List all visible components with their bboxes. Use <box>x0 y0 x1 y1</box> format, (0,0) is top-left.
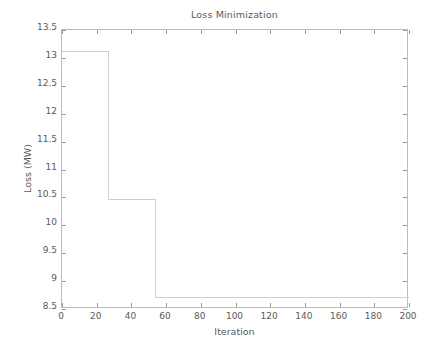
y-tick-left <box>62 58 66 59</box>
chart-figure: Loss Minimization Iteration Loss (MW) 02… <box>0 0 430 350</box>
y-tick-right <box>403 253 407 254</box>
x-tick-bottom <box>201 303 202 307</box>
x-tick-bottom <box>62 303 63 307</box>
y-tick-left <box>62 114 66 115</box>
x-tick-label: 0 <box>58 311 64 321</box>
x-tick-top <box>131 30 132 34</box>
chart-title: Loss Minimization <box>61 9 408 20</box>
y-tick-left <box>62 170 66 171</box>
y-tick-right <box>403 197 407 198</box>
y-tick-left <box>62 309 66 310</box>
y-tick-left <box>62 281 66 282</box>
y-axis-title: Loss (MW) <box>22 29 36 308</box>
x-tick-label: 140 <box>295 311 312 321</box>
loss-series-line <box>62 52 409 298</box>
x-tick-top <box>97 30 98 34</box>
y-tick-left <box>62 253 66 254</box>
x-tick-label: 200 <box>399 311 416 321</box>
y-tick-right <box>403 170 407 171</box>
x-tick-bottom <box>236 303 237 307</box>
y-tick-left <box>62 30 66 31</box>
y-tick-left <box>62 86 66 87</box>
x-tick-label: 40 <box>125 311 136 321</box>
y-tick-right <box>403 142 407 143</box>
x-tick-label: 180 <box>365 311 382 321</box>
x-tick-top <box>166 30 167 34</box>
y-tick-left <box>62 197 66 198</box>
y-tick-right <box>403 30 407 31</box>
y-tick-left <box>62 225 66 226</box>
y-tick-right <box>403 309 407 310</box>
x-tick-label: 120 <box>261 311 278 321</box>
x-tick-top <box>340 30 341 34</box>
x-tick-bottom <box>270 303 271 307</box>
x-tick-bottom <box>340 303 341 307</box>
x-tick-bottom <box>409 303 410 307</box>
x-tick-bottom <box>97 303 98 307</box>
plot-inner <box>62 30 407 307</box>
x-tick-bottom <box>166 303 167 307</box>
x-tick-label: 20 <box>90 311 101 321</box>
y-tick-right <box>403 86 407 87</box>
x-tick-label: 100 <box>226 311 243 321</box>
x-tick-label: 160 <box>330 311 347 321</box>
data-line-svg <box>62 30 409 309</box>
y-tick-left <box>62 142 66 143</box>
x-tick-top <box>374 30 375 34</box>
x-axis-title: Iteration <box>61 326 408 337</box>
x-tick-bottom <box>305 303 306 307</box>
x-tick-top <box>236 30 237 34</box>
x-tick-top <box>270 30 271 34</box>
x-tick-top <box>305 30 306 34</box>
x-tick-label: 60 <box>159 311 170 321</box>
y-tick-right <box>403 58 407 59</box>
plot-area <box>61 29 408 308</box>
x-tick-bottom <box>374 303 375 307</box>
y-tick-right <box>403 281 407 282</box>
y-tick-right <box>403 114 407 115</box>
x-tick-bottom <box>131 303 132 307</box>
x-tick-top <box>409 30 410 34</box>
x-tick-label: 80 <box>194 311 205 321</box>
x-tick-top <box>201 30 202 34</box>
y-tick-right <box>403 225 407 226</box>
